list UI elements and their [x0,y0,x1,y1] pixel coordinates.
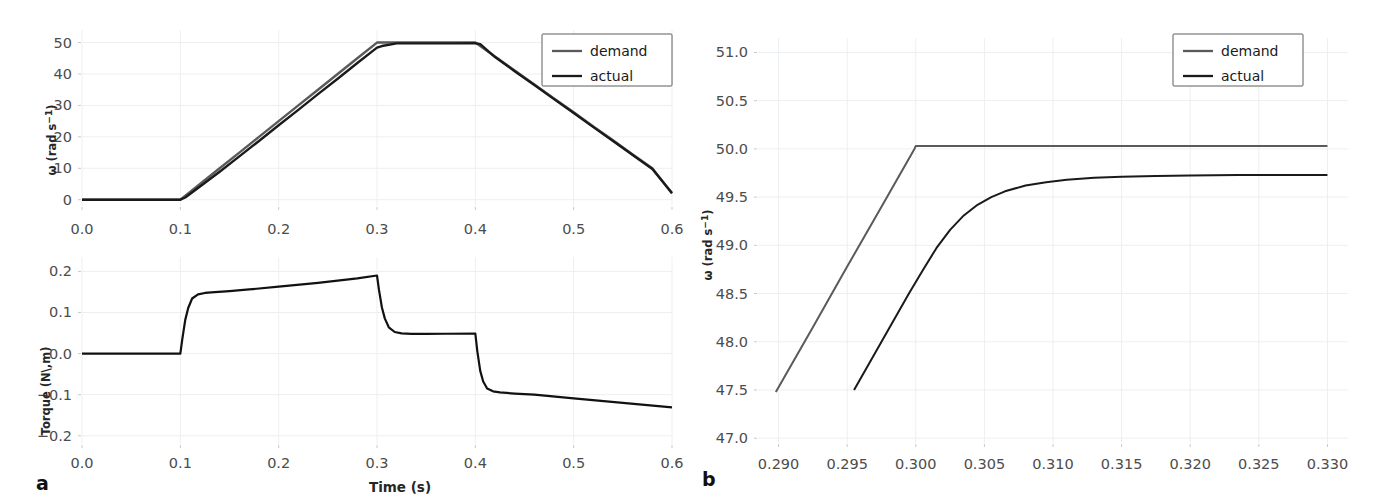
x-tick-label: 0.300 [895,456,937,472]
legend-entry-actual-label: actual [590,68,633,84]
x-tick-label: 0.1 [169,455,192,471]
panel-a-velocity-chart: 010203040500.00.10.20.30.40.50.6 ω (rad … [0,0,690,255]
x-tick-label: 0.4 [464,221,487,237]
velocity-ylabel-group: ω (rad s−1) [44,105,59,176]
panelb-ticks: 47.047.548.048.549.049.550.050.551.00.29… [716,44,1348,472]
torque-y-axis-title: Torque (N\,m) [39,347,53,436]
panelb-legend[interactable]: demandactual [1173,34,1303,86]
velocity-legend[interactable]: demandactual [542,34,672,86]
x-tick-label: 0.3 [365,221,388,237]
x-tick-label: 0.4 [464,455,487,471]
y-tick-label: 40 [54,66,72,82]
x-tick-label: 0.320 [1169,456,1211,472]
y-tick-label: 48.0 [716,334,748,350]
x-tick-label: 0.6 [660,455,683,471]
y-tick-label: 48.5 [716,286,748,302]
x-tick-label: 0.305 [964,456,1006,472]
y-tick-label: 49.5 [716,189,748,205]
omega-symbol-b: ω [701,270,715,280]
panelb-ylabel-group: ω (rad s−1) [700,210,715,281]
panelb-y-axis-title: ω (rad s−1) [700,210,715,281]
y-tick-label: 50.5 [716,93,748,109]
legend-entry-actual-label: actual [1221,68,1264,84]
panel-b-chart: 47.047.548.048.549.049.550.050.551.00.29… [690,0,1373,499]
legend-entry-demand-label: demand [590,43,647,59]
y-tick-label: 50.0 [716,141,748,157]
panel-label-b: b [702,468,716,490]
x-tick-label: 0.0 [70,221,93,237]
x-tick-label: 0.325 [1238,456,1280,472]
x-tick-label: 0.295 [826,456,868,472]
velocity-svg: 010203040500.00.10.20.30.40.50.6 ω (rad … [0,0,690,255]
x-tick-label: 0.5 [562,221,585,237]
torque-ticks: −0.2−0.10.00.10.20.00.10.20.30.40.50.6 [37,263,684,471]
y-tick-label: 49.0 [716,237,748,253]
series-actual [854,175,1327,390]
x-tick-label: 0.3 [365,455,388,471]
velocity-y-axis-title: ω (rad s−1) [44,105,59,176]
omega-symbol: ω [45,165,59,175]
y-tick-label: 0.1 [49,304,72,320]
time-x-axis-title: Time (s) [369,479,431,495]
x-tick-label: 0.315 [1101,456,1143,472]
y-tick-label: 0 [63,192,72,208]
x-tick-label: 0.0 [70,455,93,471]
torque-grid [82,257,672,444]
x-tick-label: 0.1 [169,221,192,237]
x-tick-label: 0.6 [660,221,683,237]
panel-label-a: a [36,472,49,494]
x-tick-label: 0.290 [758,456,800,472]
x-tick-label: 0.2 [267,455,290,471]
x-tick-label: 0.5 [562,455,585,471]
y-tick-label: 47.5 [716,382,748,398]
y-tick-label: 0.2 [49,263,72,279]
y-tick-label: 51.0 [716,44,748,60]
figure-root: 010203040500.00.10.20.30.40.50.6 ω (rad … [0,0,1373,499]
x-tick-label: 0.310 [1032,456,1074,472]
y-tick-label: 50 [54,35,72,51]
panel-a-torque-chart: −0.2−0.10.00.10.20.00.10.20.30.40.50.6 T… [0,243,690,499]
panel-b-svg: 47.047.548.048.549.049.550.050.551.00.29… [690,0,1373,499]
legend-entry-demand-label: demand [1221,43,1278,59]
y-tick-label: 47.0 [716,430,748,446]
series-demand [776,146,1328,392]
x-tick-label: 0.2 [267,221,290,237]
panelb-series [776,146,1328,392]
panelb-grid [758,38,1348,443]
x-tick-label: 0.330 [1307,456,1349,472]
torque-svg: −0.2−0.10.00.10.20.00.10.20.30.40.50.6 T… [0,243,690,499]
